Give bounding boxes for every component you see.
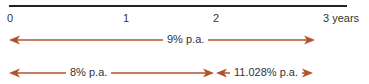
- arrow-9pct: [9, 36, 315, 45]
- arrow-8pct: [9, 69, 214, 78]
- rate-label-forward: 11.028% p.a.: [230, 66, 302, 78]
- rate-label-8pct: 8% p.a.: [66, 66, 111, 78]
- rate-label-9pct: 9% p.a.: [163, 33, 208, 45]
